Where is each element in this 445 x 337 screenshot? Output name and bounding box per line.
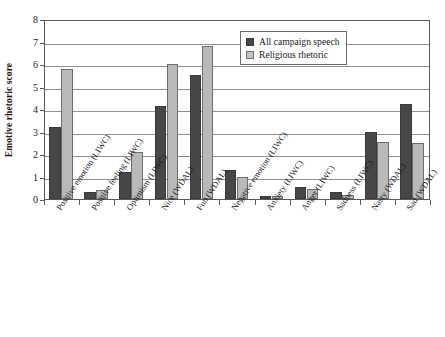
bar (190, 75, 202, 199)
y-tick-label: 8 (18, 15, 38, 25)
bar (202, 46, 214, 199)
legend-label-all-campaign-speech: All campaign speech (259, 36, 339, 47)
y-tick-label: 6 (18, 60, 38, 70)
y-tick-label: 3 (18, 128, 38, 138)
y-tick-mark (40, 88, 44, 89)
y-tick-label: 1 (18, 173, 38, 183)
x-tick-mark (430, 200, 431, 205)
legend-swatch-all-campaign-speech (246, 38, 254, 46)
bar (400, 104, 412, 199)
plot-area (44, 20, 430, 200)
legend-item: All campaign speech (246, 35, 339, 48)
bar (49, 127, 61, 199)
x-tick-mark (44, 200, 45, 205)
y-tick-mark (40, 155, 44, 156)
x-tick-mark (255, 200, 256, 205)
x-tick-mark (290, 200, 291, 205)
x-tick-mark (149, 200, 150, 205)
y-tick-mark (40, 178, 44, 179)
legend: All campaign speech Religious rhetoric (240, 31, 347, 65)
x-tick-mark (79, 200, 80, 205)
y-tick-label: 0 (18, 195, 38, 205)
bar-chart: Emotive rhetoric score 012345678 Positiv… (0, 0, 445, 337)
legend-swatch-religious-rhetoric (246, 51, 254, 59)
x-tick-mark (114, 200, 115, 205)
x-tick-mark (395, 200, 396, 205)
y-tick-label: 5 (18, 83, 38, 93)
y-axis-title: Emotive rhetoric score (2, 20, 16, 200)
y-tick-mark (40, 43, 44, 44)
x-tick-mark (325, 200, 326, 205)
x-tick-mark (219, 200, 220, 205)
y-tick-mark (40, 20, 44, 21)
y-tick-mark (40, 110, 44, 111)
x-tick-mark (184, 200, 185, 205)
legend-label-religious-rhetoric: Religious rhetoric (259, 49, 328, 60)
y-tick-label: 7 (18, 38, 38, 48)
legend-item: Religious rhetoric (246, 48, 339, 61)
x-tick-mark (360, 200, 361, 205)
bars-layer (45, 21, 429, 199)
y-tick-label: 4 (18, 105, 38, 115)
y-tick-mark (40, 133, 44, 134)
y-tick-label: 2 (18, 150, 38, 160)
y-tick-mark (40, 65, 44, 66)
